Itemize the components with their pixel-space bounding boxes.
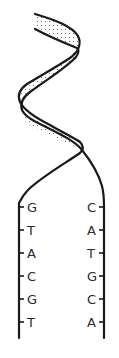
left-base-1: G xyxy=(27,200,37,215)
right-base-3: T xyxy=(86,246,95,261)
left-base-4: C xyxy=(27,269,36,284)
right-strand: C A T G C A xyxy=(86,200,104,330)
right-base-2: A xyxy=(87,223,96,238)
right-base-6: A xyxy=(87,315,96,330)
left-base-6: T xyxy=(26,315,35,330)
right-base-4: G xyxy=(87,269,97,284)
helix-ribbon xyxy=(19,14,104,338)
left-base-5: G xyxy=(27,292,37,307)
left-base-3: A xyxy=(27,246,36,261)
left-strand: G T A C G T xyxy=(19,200,37,330)
dna-helix-diagram: G T A C G T C A T G C A xyxy=(0,0,119,358)
helix-strand-a xyxy=(19,14,83,338)
left-base-2: T xyxy=(26,223,35,238)
right-base-5: C xyxy=(87,292,96,307)
right-base-1: C xyxy=(87,200,96,215)
helix-band-2 xyxy=(20,48,77,97)
